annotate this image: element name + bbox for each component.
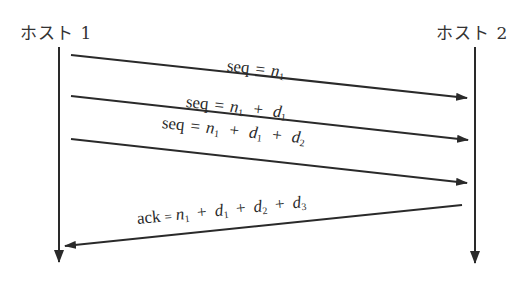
label-sub: 1 <box>223 209 229 220</box>
label-sub: 1 <box>213 128 219 139</box>
label-plus: + <box>271 125 283 145</box>
label-plus: + <box>196 202 207 222</box>
label-eq: = <box>164 209 173 225</box>
label-plus: + <box>235 198 246 218</box>
label-eq: = <box>190 116 202 136</box>
label-key: seq <box>185 92 210 113</box>
label-sub: 1 <box>237 107 243 118</box>
label-eq: = <box>255 59 267 79</box>
label-plus: + <box>252 99 264 119</box>
label-sub: 1 <box>256 132 262 143</box>
label-key: ack <box>136 207 161 228</box>
label-eq: = <box>214 95 226 115</box>
label-sub: 1 <box>184 213 190 224</box>
label-key: seq <box>226 56 251 77</box>
label-plus: + <box>274 194 285 214</box>
label-sub: 3 <box>301 201 307 212</box>
label-sub: 2 <box>262 205 268 216</box>
message-arrow-3 <box>71 139 467 183</box>
label-plus: + <box>228 120 240 140</box>
label-key: seq <box>161 113 186 134</box>
